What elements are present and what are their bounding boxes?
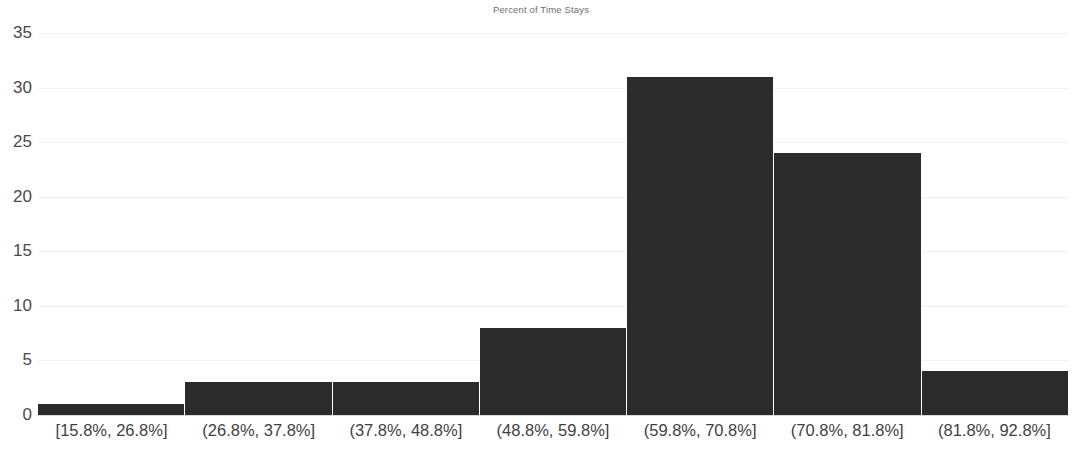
bar (333, 382, 480, 415)
bar (627, 77, 774, 415)
x-tick-label: (37.8%, 48.8%] (332, 419, 479, 441)
y-tick-label: 35 (0, 24, 32, 41)
x-tick-label: (48.8%, 59.8%] (479, 419, 626, 441)
bar (480, 328, 627, 415)
x-tick-label: (59.8%, 70.8%] (627, 419, 774, 441)
y-tick-label: 30 (0, 79, 32, 96)
x-axis: [15.8%, 26.8%](26.8%, 37.8%](37.8%, 48.8… (38, 419, 1068, 441)
y-tick-label: 25 (0, 133, 32, 150)
bar-series (38, 33, 1068, 415)
bar (38, 404, 185, 415)
chart-title: Percent of Time Stays (0, 4, 1082, 16)
x-tick-label: (70.8%, 81.8%] (774, 419, 921, 441)
bar (922, 371, 1068, 415)
x-tick-label: [15.8%, 26.8%] (38, 419, 185, 441)
bar (774, 153, 921, 415)
y-tick-label: 5 (0, 351, 32, 368)
plot-area (38, 33, 1068, 415)
y-tick-label: 15 (0, 242, 32, 259)
histogram-chart: Percent of Time Stays 05101520253035 [15… (0, 0, 1082, 459)
y-axis: 05101520253035 (0, 0, 32, 459)
y-tick-label: 10 (0, 297, 32, 314)
gridline (38, 415, 1068, 416)
y-tick-label: 0 (0, 406, 32, 423)
y-tick-label: 20 (0, 188, 32, 205)
x-tick-label: (81.8%, 92.8%] (921, 419, 1068, 441)
bar (185, 382, 332, 415)
x-tick-label: (26.8%, 37.8%] (185, 419, 332, 441)
